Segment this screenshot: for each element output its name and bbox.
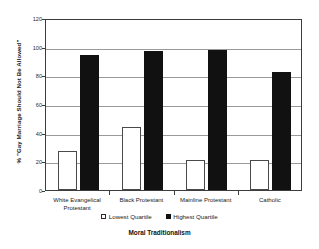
- category-label-line: White Evangelical: [45, 196, 109, 204]
- y-axis-tick-label: 60: [24, 102, 42, 108]
- legend-item: Highest Quartile: [166, 213, 218, 220]
- x-axis-category-label: Black Protestant: [109, 196, 173, 204]
- x-axis-tick-mark: [174, 191, 175, 195]
- x-axis-category-label: Catholic: [238, 196, 302, 204]
- chart-figure: % "Gay Marriage Should Not Be Allowed" 0…: [0, 0, 319, 249]
- bar-lowest-quartile: [186, 160, 205, 190]
- bar-group: [250, 20, 291, 190]
- bar-highest-quartile: [208, 50, 227, 190]
- legend-swatch-icon: [101, 214, 106, 219]
- y-axis-tick-label: 100: [24, 45, 42, 51]
- y-axis-tick-label: 0: [24, 188, 42, 194]
- y-axis-tick-label: 40: [24, 131, 42, 137]
- bar-group: [186, 20, 227, 190]
- legend-label: Highest Quartile: [173, 213, 217, 220]
- y-axis-tick-label: 80: [24, 73, 42, 79]
- bar-highest-quartile: [272, 72, 291, 190]
- category-label-line: Black Protestant: [109, 196, 173, 204]
- chart-legend: Lowest QuartileHighest Quartile: [0, 213, 319, 220]
- plot-area: [45, 19, 302, 191]
- x-axis-title: Moral Traditionalism: [0, 229, 319, 236]
- bar-group: [122, 20, 163, 190]
- x-axis-tick-mark: [238, 191, 239, 195]
- bar-lowest-quartile: [122, 127, 141, 190]
- y-axis-tick-mark: [42, 191, 45, 192]
- legend-swatch-icon: [166, 214, 171, 219]
- bar-group: [58, 20, 99, 190]
- bar-lowest-quartile: [250, 160, 269, 190]
- x-axis-category-label: White EvangelicalProtestant: [45, 196, 109, 212]
- category-label-line: Protestant: [45, 204, 109, 212]
- x-axis-tick-mark: [109, 191, 110, 195]
- bar-lowest-quartile: [58, 151, 77, 190]
- bar-highest-quartile: [80, 55, 99, 190]
- legend-item: Lowest Quartile: [101, 213, 152, 220]
- y-axis-tick-label: 120: [24, 16, 42, 22]
- x-axis-category-label: Mainline Protestant: [174, 196, 238, 204]
- category-label-line: Mainline Protestant: [174, 196, 238, 204]
- bar-highest-quartile: [144, 51, 163, 190]
- category-label-line: Catholic: [238, 196, 302, 204]
- y-axis-tick-label: 20: [24, 159, 42, 165]
- bar-series-container: [46, 20, 301, 190]
- legend-label: Lowest Quartile: [109, 213, 152, 220]
